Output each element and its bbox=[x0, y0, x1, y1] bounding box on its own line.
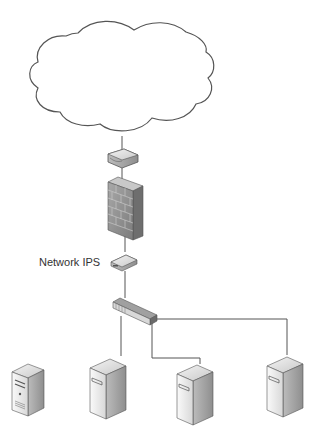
router-icon bbox=[108, 149, 138, 168]
server-4-icon bbox=[267, 357, 303, 417]
switch-icon bbox=[113, 298, 157, 325]
server-2-icon bbox=[90, 359, 126, 419]
internet-cloud-icon bbox=[30, 21, 214, 131]
firewall-icon bbox=[108, 177, 143, 240]
link-switch-server4 bbox=[153, 319, 287, 355]
connections bbox=[121, 136, 287, 364]
network-ips-label: Network IPS bbox=[39, 256, 100, 268]
network-diagram bbox=[0, 0, 323, 432]
network-ips-icon bbox=[111, 255, 137, 271]
server-3-icon bbox=[177, 365, 213, 425]
link-switch-server3 bbox=[152, 320, 200, 364]
server-1-icon bbox=[12, 364, 44, 416]
